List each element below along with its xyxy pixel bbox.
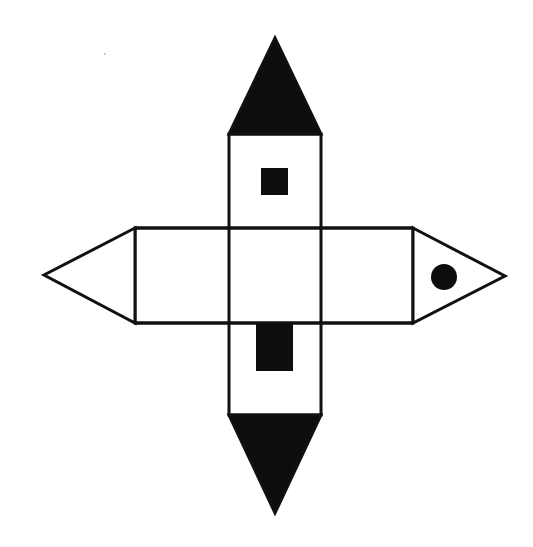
horizontal-strip-face xyxy=(135,228,413,323)
rectangle-marker xyxy=(256,323,293,371)
small-square-marker xyxy=(261,168,288,195)
scan-speck xyxy=(104,53,106,55)
net-diagram xyxy=(0,0,533,547)
diagram-canvas xyxy=(0,0,533,547)
circle-marker xyxy=(431,264,457,290)
